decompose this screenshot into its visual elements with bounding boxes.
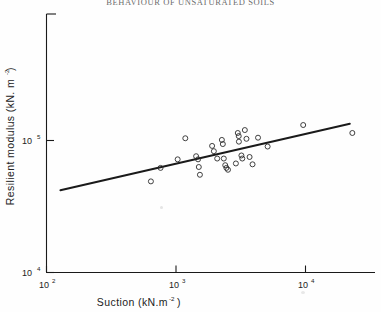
x-tick-mantissa: 10 bbox=[169, 280, 179, 290]
scatter-point bbox=[221, 156, 226, 161]
scatter-point bbox=[350, 130, 355, 135]
x-tick-exponent: 2 bbox=[52, 277, 56, 284]
scatter-point bbox=[265, 144, 270, 149]
x-tick-label-1e3: 10 3 bbox=[169, 277, 186, 290]
scatter-point bbox=[215, 156, 220, 161]
scatter-point bbox=[236, 134, 241, 139]
x-tick-label-1e4: 10 4 bbox=[298, 277, 315, 290]
y-axis-label-text: Resilient modulus (kN. m bbox=[4, 79, 16, 205]
scatter-points bbox=[148, 123, 354, 184]
chart-svg: 10 5 10 4 10 2 10 3 10 4 Suction (kN.m -… bbox=[0, 0, 381, 312]
x-axis-label: Suction (kN.m -2 ) bbox=[97, 295, 181, 308]
x-axis-label-close: ) bbox=[177, 296, 181, 308]
scatter-point bbox=[236, 139, 241, 144]
figure-container: BEHAVIOUR OF UNSATURATED SOILS 10 5 10 4 bbox=[0, 0, 381, 312]
x-axis-label-text: Suction (kN.m bbox=[97, 296, 168, 308]
y-tick-mantissa: 10 bbox=[22, 268, 32, 278]
y-tick-exponent: 4 bbox=[37, 265, 41, 272]
x-tick-mantissa: 10 bbox=[298, 280, 308, 290]
y-axis-label: Resilient modulus (kN. m -2 ) bbox=[3, 67, 16, 205]
scatter-point bbox=[242, 128, 247, 133]
scatter-point bbox=[247, 154, 252, 159]
scatter-point bbox=[148, 179, 153, 184]
y-tick-label-1e5: 10 5 bbox=[22, 133, 41, 146]
y-axis-label-close: ) bbox=[4, 67, 16, 71]
scatter-point bbox=[183, 136, 188, 141]
fit-line bbox=[60, 124, 349, 191]
scatter-point bbox=[233, 161, 238, 166]
scatter-point bbox=[210, 143, 215, 148]
x-tick-exponent: 3 bbox=[182, 277, 186, 284]
scan-speck bbox=[160, 206, 163, 209]
x-tick-exponent: 4 bbox=[311, 277, 315, 284]
y-tick-label-1e4: 10 4 bbox=[22, 265, 41, 278]
x-axis-label-exponent: -2 bbox=[169, 295, 175, 302]
scan-speck bbox=[301, 291, 305, 294]
y-tick-mantissa: 10 bbox=[22, 136, 32, 146]
scatter-point bbox=[240, 156, 245, 161]
scatter-point bbox=[211, 149, 216, 154]
scatter-point bbox=[244, 136, 249, 141]
scatter-point bbox=[301, 123, 306, 128]
scatter-point bbox=[235, 130, 240, 135]
scatter-point bbox=[196, 164, 201, 169]
scatter-point bbox=[197, 172, 202, 177]
scatter-point bbox=[250, 162, 255, 167]
x-axis-ticks bbox=[47, 266, 306, 273]
y-tick-exponent: 5 bbox=[37, 133, 41, 140]
x-tick-mantissa: 10 bbox=[39, 280, 49, 290]
y-axis-ticks bbox=[47, 141, 55, 273]
fit-line-segment bbox=[60, 124, 349, 191]
scatter-point bbox=[175, 157, 180, 162]
x-tick-label-1e2: 10 2 bbox=[39, 277, 56, 290]
scatter-point bbox=[256, 135, 261, 140]
axis-lines bbox=[46, 14, 375, 273]
